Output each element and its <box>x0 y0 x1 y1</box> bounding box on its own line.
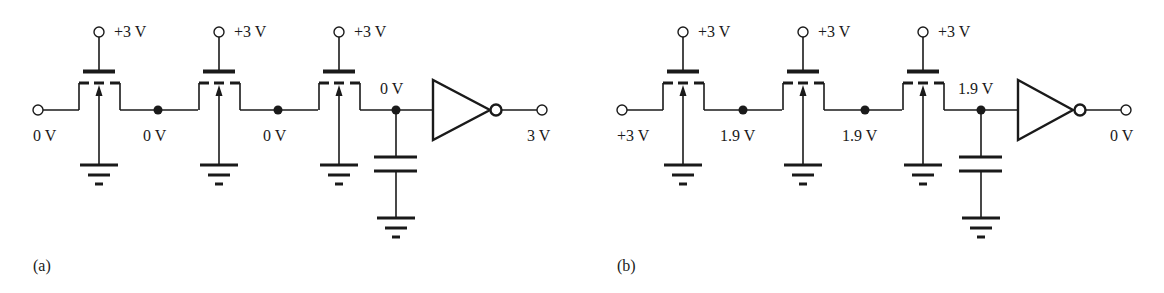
input-terminal <box>33 105 43 115</box>
gate-voltage-label: +3 V <box>114 23 147 40</box>
junction-node <box>861 106 870 115</box>
junction-node <box>739 106 748 115</box>
pass-transistor-chain-figure: 0 V +3 V +3 V +3 V 0 V 0 V 0 V 3 V (a) +… <box>0 0 1164 293</box>
panel-b: +3 V +3 V +3 V +3 V 1.9 V 1.9 V 1.9 V 0 … <box>617 23 1134 275</box>
node-voltage-label: 1.9 V <box>842 127 878 144</box>
inverter-bubble <box>1075 105 1086 116</box>
inverter-icon <box>1018 80 1073 140</box>
pass-transistor-1 <box>79 27 120 184</box>
input-terminal <box>617 105 627 115</box>
node-voltage-label: 0 V <box>263 127 287 144</box>
panel-a: 0 V +3 V +3 V +3 V 0 V 0 V 0 V 3 V (a) <box>33 23 551 275</box>
input-voltage-label: +3 V <box>617 127 650 144</box>
output-terminal <box>537 105 547 115</box>
gate-voltage-label: +3 V <box>818 23 851 40</box>
node-voltage-label: 0 V <box>143 127 167 144</box>
ground-icon <box>962 218 1000 237</box>
gate-voltage-label: +3 V <box>354 23 387 40</box>
panel-caption: (a) <box>33 257 51 275</box>
node-voltage-label: 1.9 V <box>720 127 756 144</box>
last-node-voltage-label: 1.9 V <box>958 80 994 97</box>
gate-voltage-label: +3 V <box>698 23 731 40</box>
output-terminal <box>1121 105 1131 115</box>
panel-caption: (b) <box>617 257 636 275</box>
circuit-diagram: 0 V +3 V +3 V +3 V 0 V 0 V 0 V 3 V (a) +… <box>0 0 1164 293</box>
pass-transistor-1 <box>663 27 704 184</box>
pass-transistor-2 <box>199 27 240 184</box>
gate-voltage-label: +3 V <box>938 23 971 40</box>
junction-node <box>154 106 163 115</box>
output-voltage-label: 0 V <box>1110 127 1134 144</box>
pass-transistor-3 <box>903 27 944 184</box>
output-voltage-label: 3 V <box>527 127 551 144</box>
last-node-voltage-label: 0 V <box>380 80 404 97</box>
gate-voltage-label: +3 V <box>234 23 267 40</box>
pass-transistor-3 <box>319 27 360 184</box>
input-voltage-label: 0 V <box>33 127 57 144</box>
pass-transistor-2 <box>783 27 824 184</box>
junction-node <box>274 106 283 115</box>
ground-icon <box>377 218 415 237</box>
inverter-icon <box>433 80 490 140</box>
inverter-bubble <box>491 105 502 116</box>
